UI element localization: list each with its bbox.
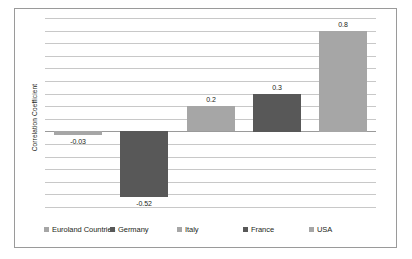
gridline [45, 207, 376, 208]
legend-swatch-icon [44, 227, 49, 232]
legend-swatch-icon [243, 227, 248, 232]
legend-item-euroland-countries[interactable]: Euroland Countries [44, 225, 115, 234]
y-axis-title-label: Correlation Coefficient [32, 83, 39, 151]
gridline [45, 18, 376, 19]
gridline [45, 182, 376, 183]
value-label-italy: 0.2 [177, 95, 245, 104]
chart-frame: Correlation Coefficient -0.03-0.520.20.3… [14, 8, 397, 248]
legend-item-usa[interactable]: USA [309, 225, 332, 234]
bar-usa[interactable] [319, 31, 367, 132]
legend-item-italy[interactable]: Italy [177, 225, 199, 234]
bar-france[interactable] [253, 94, 301, 132]
bar-euroland-countries[interactable] [54, 131, 102, 135]
legend-label: Germany [118, 225, 149, 234]
value-label-usa: 0.8 [309, 20, 377, 29]
legend-label: France [251, 225, 274, 234]
value-label-france: 0.3 [243, 83, 311, 92]
gridline [45, 157, 376, 158]
plot-area: -0.03-0.520.20.30.8 [45, 18, 376, 207]
chart-legend: Euroland CountriesGermanyItalyFranceUSA [45, 221, 380, 237]
legend-item-germany[interactable]: Germany [110, 225, 149, 234]
gridline [45, 194, 376, 195]
gridline [45, 169, 376, 170]
bar-germany[interactable] [120, 131, 168, 197]
value-label-germany: -0.52 [110, 199, 178, 208]
y-axis-title: Correlation Coefficient [29, 69, 41, 165]
legend-item-france[interactable]: France [243, 225, 274, 234]
value-label-euroland-countries: -0.03 [44, 137, 112, 146]
legend-swatch-icon [177, 227, 182, 232]
legend-label: USA [317, 225, 332, 234]
legend-swatch-icon [110, 227, 115, 232]
legend-swatch-icon [309, 227, 314, 232]
legend-label: Italy [185, 225, 199, 234]
bar-italy[interactable] [187, 106, 235, 131]
legend-label: Euroland Countries [52, 225, 115, 234]
